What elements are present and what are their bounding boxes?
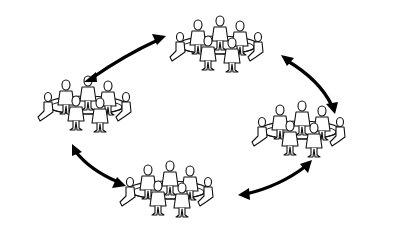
group-bottom (120, 161, 213, 217)
arrow-left-top (84, 34, 166, 82)
group-left (38, 76, 131, 132)
group-top (170, 16, 263, 72)
diagram-canvas (0, 0, 398, 247)
arrow-right-bottom (238, 160, 312, 200)
arrow-bottom-left (72, 144, 126, 188)
arrow-top-right (281, 55, 338, 114)
